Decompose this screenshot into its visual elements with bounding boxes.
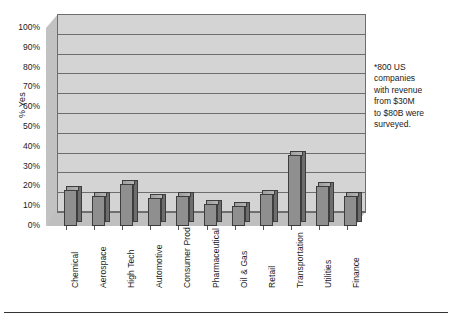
bar — [232, 206, 245, 226]
bar-top-face — [206, 200, 219, 205]
bar-side-face — [133, 180, 138, 222]
bar-front-face — [260, 194, 273, 226]
x-tick-mark — [94, 226, 95, 230]
bar-front-face — [92, 196, 105, 226]
x-tick-label: High Tech — [126, 249, 136, 288]
bar-top-face — [122, 180, 135, 185]
x-tick-mark — [207, 226, 208, 230]
bar — [204, 204, 217, 226]
y-tick-label: 40% — [6, 141, 40, 151]
x-tick-mark — [66, 226, 67, 230]
bar-top-face — [262, 190, 275, 195]
bar — [64, 190, 77, 226]
gridline — [57, 73, 366, 74]
plot-area — [46, 14, 366, 226]
gridline — [57, 14, 366, 15]
bar-front-face — [232, 206, 245, 226]
y-tick-label: 100% — [6, 22, 40, 32]
y-tick-label: 30% — [6, 161, 40, 171]
bar-top-face — [318, 182, 331, 187]
bar — [120, 184, 133, 226]
bar-top-face — [178, 192, 191, 197]
bar-top-face — [66, 186, 79, 191]
annotation-line: companies — [374, 73, 452, 84]
x-tick-label: Utilities — [323, 260, 333, 288]
bar-side-face — [77, 186, 82, 222]
x-tick-mark — [178, 226, 179, 230]
bar-chart-figure: % Yes 100%90%80%70%60%50%40%30%20%10%0% … — [0, 0, 452, 323]
gridline — [57, 54, 366, 55]
x-tick-mark — [347, 226, 348, 230]
x-tick-label: Retail — [267, 266, 277, 288]
bar — [148, 198, 161, 226]
survey-note-annotation: *800 UScompanieswith revenuefrom $30Mto … — [374, 62, 452, 130]
x-tick-label: Pharmaceutical — [211, 228, 221, 288]
bar-top-face — [290, 151, 303, 156]
x-tick-label: Automotive — [154, 244, 164, 288]
y-tick-label: 10% — [6, 200, 40, 210]
bar — [260, 194, 273, 226]
bar-front-face — [148, 198, 161, 226]
y-tick-label: 80% — [6, 62, 40, 72]
bar — [92, 196, 105, 226]
bar-front-face — [316, 186, 329, 226]
x-tick-label: Consumer Prod — [182, 227, 192, 288]
bar-top-face — [234, 202, 247, 207]
bar-front-face — [344, 196, 357, 226]
x-tick-label: Chemical — [70, 252, 80, 288]
gridline — [57, 93, 366, 94]
annotation-line: from $30M — [374, 96, 452, 107]
bar-side-face — [301, 151, 306, 222]
x-tick-label: Finance — [351, 257, 361, 288]
y-tick-label: 50% — [6, 121, 40, 131]
gridline — [57, 172, 366, 173]
x-tick-label: Transportation — [295, 232, 305, 288]
x-tick-mark — [235, 226, 236, 230]
x-tick-mark — [150, 226, 151, 230]
gridline — [57, 153, 366, 154]
bar — [288, 155, 301, 226]
bar — [344, 196, 357, 226]
y-tick-label: 70% — [6, 81, 40, 91]
bar-front-face — [120, 184, 133, 226]
bar — [176, 196, 189, 226]
gridline — [57, 113, 366, 114]
bar-side-face — [329, 182, 334, 222]
y-tick-label: 90% — [6, 42, 40, 52]
y-axis-tick-labels: 100%90%80%70%60%50%40%30%20%10%0% — [6, 0, 40, 323]
y-tick-label: 60% — [6, 101, 40, 111]
bar-front-face — [176, 196, 189, 226]
bar-top-face — [346, 192, 359, 197]
annotation-line: with revenue — [374, 85, 452, 96]
annotation-line: surveyed. — [374, 119, 452, 130]
gridline — [57, 133, 366, 134]
annotation-line: *800 US — [374, 62, 452, 73]
y-tick-label: 20% — [6, 180, 40, 190]
bar-front-face — [64, 190, 77, 226]
x-tick-mark — [291, 226, 292, 230]
bar-front-face — [288, 155, 301, 226]
bar-front-face — [204, 204, 217, 226]
x-tick-mark — [263, 226, 264, 230]
bar-top-face — [150, 194, 163, 199]
bar-top-face — [94, 192, 107, 197]
gridline — [57, 34, 366, 35]
bar — [316, 186, 329, 226]
x-tick-mark — [122, 226, 123, 230]
y-tick-label: 0% — [6, 220, 40, 230]
x-tick-label: Oil & Gas — [239, 251, 249, 288]
annotation-line: to $80B were — [374, 108, 452, 119]
bottom-divider — [4, 312, 448, 313]
x-tick-mark — [319, 226, 320, 230]
x-tick-label: Aerospace — [98, 246, 108, 288]
